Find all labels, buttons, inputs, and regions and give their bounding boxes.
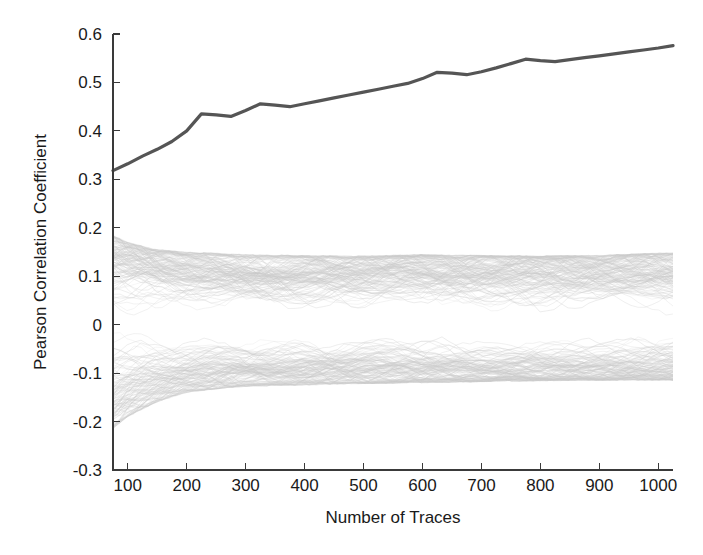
- x-tick-label: 200: [172, 476, 200, 495]
- chart-figure: 1002003004005006007008009001000 -0.3-0.2…: [0, 0, 703, 555]
- x-tick-label: 300: [231, 476, 259, 495]
- y-tick-label: -0.1: [73, 364, 102, 383]
- y-tick-label: 0.4: [78, 122, 102, 141]
- x-tick-label: 100: [114, 476, 142, 495]
- x-tick-label: 800: [526, 476, 554, 495]
- y-tick-label: 0.1: [78, 267, 102, 286]
- y-tick-label: -0.2: [73, 413, 102, 432]
- x-tick-label: 900: [585, 476, 613, 495]
- correlation-plot: 1002003004005006007008009001000 -0.3-0.2…: [0, 0, 703, 555]
- y-tick-label: -0.3: [73, 461, 102, 480]
- y-tick-label: 0.2: [78, 219, 102, 238]
- x-tick-label: 600: [408, 476, 436, 495]
- y-tick-label: 0: [93, 316, 102, 335]
- x-tick-label: 1000: [639, 476, 677, 495]
- x-axis-title: Number of Traces: [325, 508, 460, 527]
- y-tick-label: 0.6: [78, 25, 102, 44]
- x-tick-label: 700: [467, 476, 495, 495]
- x-tick-label: 500: [349, 476, 377, 495]
- y-tick-label: 0.5: [78, 73, 102, 92]
- y-axis-title: Pearson Correlation Coefficient: [31, 134, 50, 370]
- x-tick-label: 400: [290, 476, 318, 495]
- y-tick-label: 0.3: [78, 170, 102, 189]
